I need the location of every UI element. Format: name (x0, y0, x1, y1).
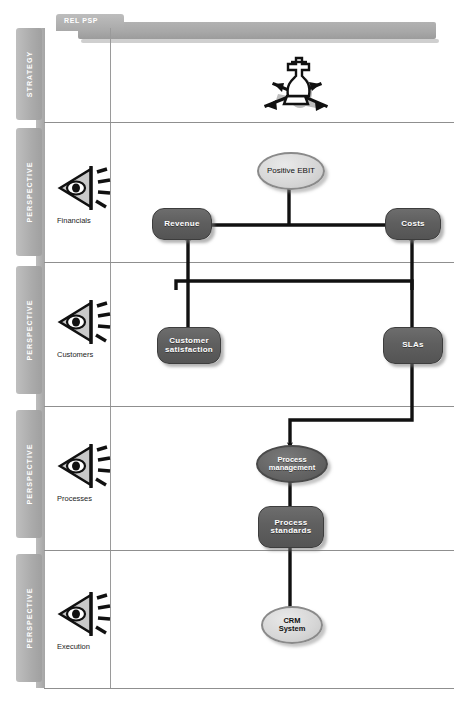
strategy-map-diagram: CAUSE & EFFECT REL PSP STRATEGY PERSPECT… (0, 0, 454, 701)
perspective-execution-label: Execution (57, 642, 119, 651)
node-positive-ebit[interactable]: Positive EBIT (257, 152, 325, 190)
tab-rel-psp[interactable]: REL PSP (56, 14, 124, 31)
projector-eye-icon (57, 162, 115, 214)
node-customer-satisfaction[interactable]: Customer satisfaction (157, 327, 221, 364)
perspective-financials-label: Financials (57, 216, 119, 225)
vtab-strategy-label: STRATEGY (26, 51, 33, 97)
node-positive-ebit-label: Positive EBIT (267, 167, 315, 175)
node-crm-system[interactable]: CRM System (261, 606, 323, 644)
top-banner: CAUSE & EFFECT (78, 22, 436, 39)
node-costs-label: Costs (401, 220, 425, 228)
vtab-perspective-processes[interactable]: PERSPECTIVE (16, 410, 42, 538)
node-slas[interactable]: SLAs (383, 327, 443, 364)
projector-eye-icon (57, 296, 115, 348)
node-slas-label: SLAs (402, 341, 424, 349)
vtab-perspective-financials-label: PERSPECTIVE (26, 161, 33, 222)
node-revenue-label: Revenue (164, 220, 199, 228)
node-customer-satisfaction-label-line2: satisfaction (165, 345, 213, 354)
row-divider-customers-processes (44, 406, 454, 407)
chess-strategy-icon (258, 50, 336, 118)
projector-eye-icon (57, 440, 115, 492)
projector-eye-icon (57, 588, 115, 640)
node-costs[interactable]: Costs (385, 208, 441, 240)
vtab-perspective-customers[interactable]: PERSPECTIVE (16, 266, 42, 394)
perspective-customers-label: Customers (57, 350, 119, 359)
banner-cause-effect-label: CAUSE & EFFECT (355, 48, 430, 57)
banner-shadow (81, 39, 439, 43)
row-divider-bottom (44, 688, 454, 689)
row-divider-processes-execution (44, 550, 454, 551)
vtab-perspective-processes-label: PERSPECTIVE (26, 443, 33, 504)
vtab-strategy[interactable]: STRATEGY (16, 28, 42, 120)
row-divider-strategy-financials (44, 122, 454, 123)
node-revenue[interactable]: Revenue (152, 208, 212, 240)
vtab-perspective-customers-label: PERSPECTIVE (26, 299, 33, 360)
node-crm-system-label-line2: System (279, 624, 306, 633)
vtab-perspective-execution[interactable]: PERSPECTIVE (16, 554, 42, 682)
tab-rel-psp-label: REL PSP (64, 17, 98, 24)
vtab-perspective-financials[interactable]: PERSPECTIVE (16, 128, 42, 256)
node-process-management-label-line2: management (269, 463, 315, 472)
perspective-processes-label: Processes (57, 494, 119, 503)
vtab-perspective-execution-label: PERSPECTIVE (26, 587, 33, 648)
node-process-standards-label-line2: standards (271, 526, 312, 535)
node-process-management[interactable]: Process management (256, 445, 328, 483)
row-divider-financials-customers (44, 262, 454, 263)
node-process-standards[interactable]: Process standards (258, 506, 324, 548)
